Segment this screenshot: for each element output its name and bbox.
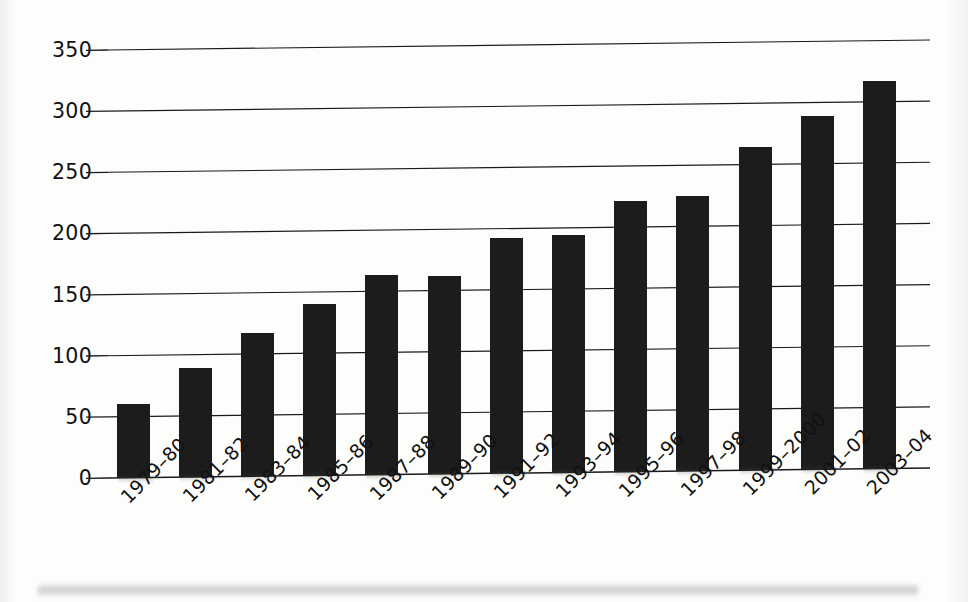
x-axis-tick-labels: 1979–801981–821983–841985–861987–881989–… [0, 0, 968, 602]
x-axis-tick-label: 2003–04 [862, 424, 937, 499]
x-axis-tick-label: 1981–82 [178, 432, 253, 507]
bar-chart: 050100150200250300350 1979–801981–821983… [0, 0, 968, 602]
x-axis-tick-label: 1995–96 [614, 427, 689, 502]
x-axis-tick-label: 1989–90 [427, 429, 502, 504]
x-axis-tick-label: 1985–86 [303, 430, 378, 505]
x-axis-tick-label: 1983–84 [240, 431, 315, 506]
x-axis-tick-label: 1979–80 [116, 433, 191, 508]
x-axis-tick-label: 1993–94 [551, 427, 626, 502]
x-axis-tick-label: 1997–98 [676, 426, 751, 501]
x-axis-tick-label: 1987–88 [365, 430, 440, 505]
x-axis-tick-label: 1991–92 [489, 428, 564, 503]
scan-artifact-band [38, 583, 918, 597]
